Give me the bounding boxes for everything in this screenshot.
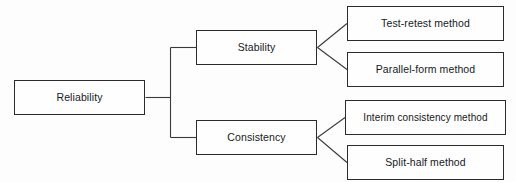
- node-reliability[interactable]: Reliability: [14, 80, 145, 115]
- node-interim-consistency-method[interactable]: Interim consistency method: [345, 100, 506, 135]
- node-stability[interactable]: Stability: [196, 30, 317, 65]
- connector-consistency-to-interim: [318, 118, 346, 138]
- node-test-retest-method-label: Test-retest method: [381, 18, 470, 30]
- connector-stability-to-parallel-form: [318, 48, 348, 70]
- reliability-diagram: Reliability Stability Consistency Test-r…: [0, 0, 516, 182]
- node-reliability-label: Reliability: [56, 92, 102, 104]
- node-interim-consistency-method-label: Interim consistency method: [363, 112, 487, 123]
- node-test-retest-method[interactable]: Test-retest method: [347, 6, 504, 41]
- node-stability-label: Stability: [238, 42, 276, 54]
- connector-consistency-to-split-half: [318, 138, 348, 163]
- node-split-half-method[interactable]: Split-half method: [347, 145, 504, 180]
- node-parallel-form-method-label: Parallel-form method: [376, 64, 475, 76]
- node-parallel-form-method[interactable]: Parallel-form method: [347, 52, 504, 87]
- connector-stability-to-test-retest: [318, 24, 348, 48]
- node-consistency[interactable]: Consistency: [196, 120, 317, 155]
- node-consistency-label: Consistency: [227, 132, 285, 144]
- node-split-half-method-label: Split-half method: [385, 157, 466, 169]
